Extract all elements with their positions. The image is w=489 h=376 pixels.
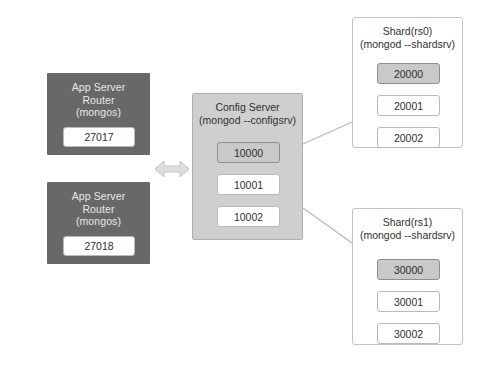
app-server-2-title: App Server Router (mongos) <box>47 182 150 228</box>
shard-rs1-port-2[interactable]: 30002 <box>377 323 440 344</box>
shard-rs0-port-2[interactable]: 20002 <box>377 127 440 148</box>
app-server-router-1[interactable]: App Server Router (mongos) 27017 <box>47 73 150 155</box>
app-server-1-port[interactable]: 27017 <box>63 127 135 147</box>
shard-rs0-box[interactable]: Shard(rs0) (mongod --shardsrv) 20000 200… <box>352 17 463 148</box>
config-server-port-2[interactable]: 10002 <box>217 206 280 227</box>
shard-rs1-port-0[interactable]: 30000 <box>377 259 440 280</box>
bidirectional-arrow-icon <box>154 157 190 181</box>
app-server-2-port[interactable]: 27018 <box>63 236 135 256</box>
shard-rs0-port-0[interactable]: 20000 <box>377 63 440 84</box>
app-server-1-title: App Server Router (mongos) <box>47 73 150 119</box>
config-server-port-1[interactable]: 10001 <box>217 174 280 195</box>
config-server-title: Config Server (mongod --configsrv) <box>193 94 302 126</box>
config-server-box[interactable]: Config Server (mongod --configsrv) 10000… <box>192 93 303 240</box>
diagram-canvas: App Server Router (mongos) 27017 App Ser… <box>0 0 489 376</box>
shard-rs0-port-1[interactable]: 20001 <box>377 95 440 116</box>
shard-rs1-title: Shard(rs1) (mongod --shardsrv) <box>353 209 462 241</box>
shard-rs1-box[interactable]: Shard(rs1) (mongod --shardsrv) 30000 300… <box>352 208 463 345</box>
config-server-port-0[interactable]: 10000 <box>217 142 280 163</box>
config-to-shard0-line <box>303 122 352 144</box>
shard-rs0-title: Shard(rs0) (mongod --shardsrv) <box>353 18 462 50</box>
config-to-shard1-line <box>303 208 352 243</box>
app-server-router-2[interactable]: App Server Router (mongos) 27018 <box>47 182 150 264</box>
shard-rs1-port-1[interactable]: 30001 <box>377 291 440 312</box>
